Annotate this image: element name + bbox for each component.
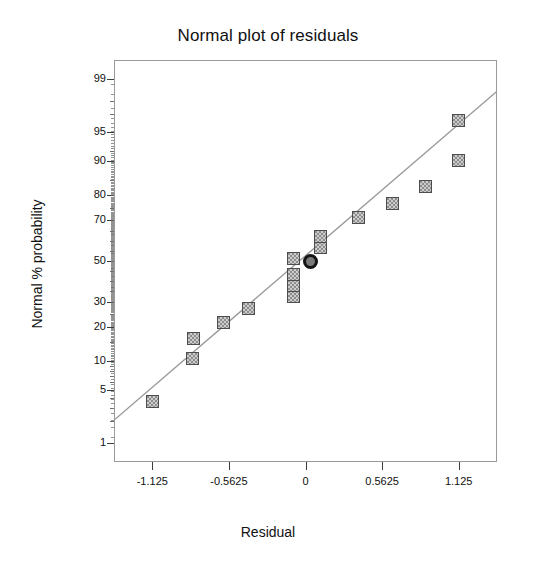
- x-tick-label: -1.125: [117, 476, 187, 487]
- y-minor-tick-mark: [111, 382, 114, 383]
- y-minor-tick-mark: [111, 171, 114, 172]
- y-tick-mark: [107, 443, 114, 444]
- x-tick-label: -0.5625: [194, 476, 264, 487]
- y-minor-tick-mark: [111, 230, 114, 231]
- y-minor-tick-mark: [111, 308, 114, 309]
- y-minor-tick-mark: [111, 227, 114, 228]
- y-minor-tick-mark: [111, 101, 114, 102]
- y-minor-tick-mark: [111, 162, 114, 163]
- y-minor-tick-mark: [111, 244, 114, 245]
- y-minor-tick-mark: [111, 366, 114, 367]
- y-minor-tick-mark: [111, 413, 114, 414]
- y-minor-tick-mark: [111, 118, 114, 119]
- y-minor-tick-mark: [111, 193, 114, 194]
- y-minor-tick-mark: [111, 229, 114, 230]
- y-minor-tick-mark: [111, 284, 114, 285]
- y-minor-tick-mark: [111, 339, 114, 340]
- y-minor-tick-mark: [111, 420, 114, 421]
- y-minor-tick-mark: [111, 255, 114, 256]
- y-minor-tick-mark: [111, 320, 114, 321]
- y-minor-tick-mark: [111, 269, 114, 270]
- y-minor-tick-mark: [111, 253, 114, 254]
- y-minor-tick-mark: [111, 253, 114, 254]
- y-minor-tick-mark: [111, 216, 114, 217]
- y-minor-tick-mark: [111, 261, 114, 262]
- y-minor-tick-mark: [111, 348, 114, 349]
- y-minor-tick-mark: [111, 195, 114, 196]
- y-minor-tick-mark: [111, 258, 114, 259]
- data-point-marker: [386, 197, 399, 210]
- y-tick-mark: [107, 79, 114, 80]
- y-minor-tick-mark: [111, 309, 114, 310]
- y-minor-tick-mark: [111, 274, 114, 275]
- y-minor-tick-mark: [111, 356, 114, 357]
- y-minor-tick-mark: [111, 268, 114, 269]
- y-minor-tick-mark: [111, 343, 114, 344]
- y-minor-tick-mark: [111, 265, 114, 266]
- y-minor-tick-mark: [111, 250, 114, 251]
- data-point-marker: [242, 302, 255, 315]
- y-minor-tick-mark: [111, 427, 114, 428]
- y-minor-tick-mark: [111, 200, 114, 201]
- y-minor-tick-mark: [111, 209, 114, 210]
- y-minor-tick-mark: [111, 213, 114, 214]
- y-minor-tick-mark: [111, 223, 114, 224]
- y-minor-tick-mark: [111, 182, 114, 183]
- y-minor-tick-mark: [111, 297, 114, 298]
- y-minor-tick-mark: [111, 114, 114, 115]
- data-point-marker: [452, 114, 465, 127]
- y-minor-tick-mark: [111, 292, 114, 293]
- y-minor-tick-mark: [111, 403, 114, 404]
- y-minor-tick-mark: [111, 232, 114, 233]
- y-minor-tick-mark: [111, 355, 114, 356]
- y-minor-tick-mark: [111, 256, 114, 257]
- y-minor-tick-mark: [111, 353, 114, 354]
- y-minor-tick-mark: [111, 261, 114, 262]
- y-minor-tick-mark: [111, 302, 114, 303]
- y-minor-tick-mark: [111, 319, 114, 320]
- y-minor-tick-mark: [111, 235, 114, 236]
- data-point-marker: [287, 290, 300, 303]
- y-minor-tick-mark: [111, 408, 114, 409]
- y-minor-tick-mark: [111, 307, 114, 308]
- y-tick-label: 1: [72, 437, 106, 448]
- y-minor-tick-mark: [111, 155, 114, 156]
- y-minor-tick-mark: [111, 301, 114, 302]
- y-minor-tick-mark: [111, 140, 114, 141]
- y-minor-tick-mark: [111, 239, 114, 240]
- y-minor-tick-mark: [111, 172, 114, 173]
- y-minor-tick-mark: [111, 260, 114, 261]
- y-minor-tick-mark: [111, 346, 114, 347]
- y-minor-tick-mark: [111, 266, 114, 267]
- y-minor-tick-mark: [111, 305, 114, 306]
- y-minor-tick-mark: [111, 233, 114, 234]
- x-tick-mark: [306, 462, 307, 470]
- y-minor-tick-mark: [111, 300, 114, 301]
- y-minor-tick-mark: [111, 177, 114, 178]
- y-minor-tick-mark: [111, 176, 114, 177]
- y-minor-tick-mark: [111, 345, 114, 346]
- y-minor-tick-mark: [111, 271, 114, 272]
- x-tick-mark: [459, 462, 460, 470]
- y-axis-title: Normal % probability: [29, 149, 45, 379]
- y-minor-tick-mark: [111, 262, 114, 263]
- y-minor-tick-mark: [111, 189, 114, 190]
- y-minor-tick-mark: [111, 318, 114, 319]
- x-tick-label: 0.5625: [347, 476, 417, 487]
- y-minor-tick-mark: [111, 275, 114, 276]
- y-minor-tick-mark: [111, 281, 114, 282]
- y-minor-tick-mark: [111, 94, 114, 95]
- y-minor-tick-mark: [111, 333, 114, 334]
- y-minor-tick-mark: [111, 280, 114, 281]
- y-minor-tick-mark: [111, 192, 114, 193]
- y-minor-tick-mark: [111, 228, 114, 229]
- y-minor-tick-mark: [111, 219, 114, 220]
- y-minor-tick-mark: [111, 127, 114, 128]
- y-minor-tick-mark: [111, 379, 114, 380]
- highlighted-data-point: [303, 254, 318, 269]
- data-point-marker: [419, 180, 432, 193]
- y-minor-tick-mark: [111, 323, 114, 324]
- y-minor-tick-mark: [111, 143, 114, 144]
- y-minor-tick-mark: [111, 395, 114, 396]
- y-minor-tick-mark: [110, 421, 114, 422]
